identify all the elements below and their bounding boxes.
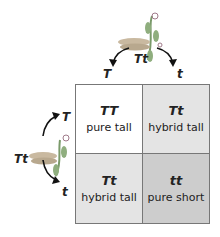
side-gamete-t: t xyxy=(62,185,68,199)
side-gamete-T: T xyxy=(62,110,70,124)
cell-Tt-top: Tt hybrid tall xyxy=(143,85,209,154)
cell-genotype: Tt xyxy=(168,103,183,118)
cell-phenotype: hybrid tall xyxy=(81,191,137,205)
cell-genotype: Tt xyxy=(101,173,116,188)
cell-tt: tt pure short xyxy=(143,154,209,223)
top-gamete-T: T xyxy=(103,67,111,81)
cell-phenotype: hybrid tall xyxy=(148,121,204,135)
curved-arrow-icon xyxy=(105,45,180,70)
side-parent-genotype: Tt xyxy=(14,152,28,166)
cell-genotype: TT xyxy=(100,103,118,118)
curved-arrow-icon xyxy=(38,108,63,188)
punnett-square: TT pure tall Tt hybrid tall Tt hybrid ta… xyxy=(75,84,210,224)
cell-phenotype: pure tall xyxy=(86,121,132,135)
cell-TT: TT pure tall xyxy=(76,85,143,154)
cell-Tt-bottom: Tt hybrid tall xyxy=(76,154,143,223)
top-gamete-t: t xyxy=(177,67,183,81)
cell-phenotype: pure short xyxy=(148,191,205,205)
cell-genotype: tt xyxy=(170,173,182,188)
